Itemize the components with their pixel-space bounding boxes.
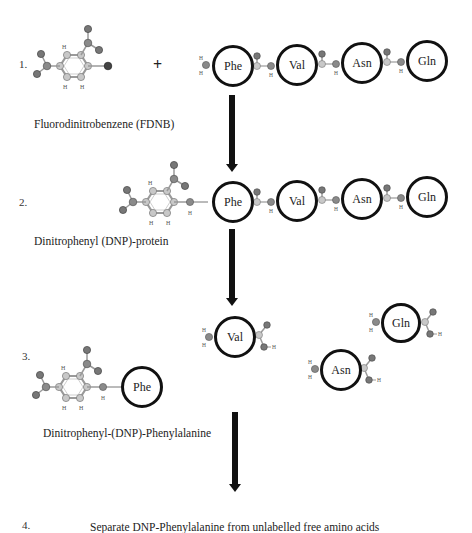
residue-gln: Gln	[406, 40, 448, 82]
step-number-3: 3.	[22, 350, 30, 362]
step-number-1: 1.	[19, 58, 27, 70]
step-number-2: 2.	[19, 196, 27, 208]
dnp-phe-molecule: H	[32, 346, 121, 411]
caption-fdnb: Fluorodinitrobenzene (FDNB)	[34, 118, 174, 130]
svg-text:H: H	[188, 210, 192, 216]
residue-phe: Phe	[212, 45, 254, 87]
plus-sign: +	[153, 56, 162, 74]
free-residue-asn: Asn	[320, 349, 362, 391]
dnp-protein-molecule: H	[119, 161, 208, 226]
residue-phe-labelled: Phe	[121, 366, 163, 408]
caption-dnp-phe: Dinitrophenyl-(DNP)-Phenylalanine	[43, 427, 211, 439]
residue-val: Val	[276, 180, 318, 222]
free-residue-val: Val	[214, 316, 256, 358]
residue-gln: Gln	[406, 176, 448, 218]
residue-asn: Asn	[341, 178, 383, 220]
step-number-4: 4.	[22, 519, 30, 531]
caption-separate: Separate DNP-Phenylalanine from unlabell…	[90, 521, 379, 533]
residue-phe-dnp: Phe	[212, 181, 254, 223]
svg-text:H: H	[101, 395, 105, 401]
residue-val: Val	[276, 44, 318, 86]
fdnb-molecule	[33, 25, 111, 90]
caption-dnp-protein: Dinitrophenyl (DNP)-protein	[34, 235, 168, 247]
free-residue-gln: Gln	[381, 303, 421, 343]
residue-asn: Asn	[341, 42, 383, 84]
fluorine-atom	[104, 62, 112, 70]
